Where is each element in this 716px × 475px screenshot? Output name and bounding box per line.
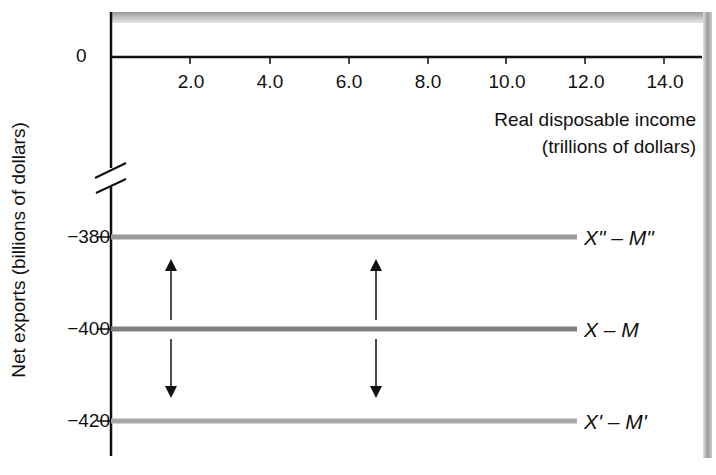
x-tick-label: 2.0: [178, 71, 204, 93]
y-tick-label-380: −380: [67, 226, 110, 248]
frame-right-shade: [703, 12, 712, 458]
x-tick-label: 6.0: [336, 71, 362, 93]
curve-label-lower: X' – M': [584, 410, 647, 434]
y-tick-label-400: −400: [67, 318, 110, 340]
x-tick-label: 8.0: [415, 71, 441, 93]
x-tick-label: 14.0: [647, 71, 684, 93]
x-axis-title: Real disposable income (trillions of dol…: [494, 106, 696, 160]
x-tick-label: 12.0: [568, 71, 605, 93]
curve-label-upper: X" – M": [584, 226, 654, 250]
frame-top-shade: [111, 12, 711, 23]
y-tick-label-420: −420: [67, 410, 110, 432]
curve-label-mid: X – M: [584, 318, 639, 342]
x-tick-label: 10.0: [489, 71, 526, 93]
y-tick-label-0: 0: [76, 45, 87, 67]
x-tick-label: 4.0: [257, 71, 283, 93]
y-axis-title: Net exports (billions of dollars): [8, 122, 30, 378]
x-axis-title-line1: Real disposable income: [494, 106, 696, 133]
x-axis-title-line2: (trillions of dollars): [494, 133, 696, 160]
chart-figure: 0 −380 −400 −420 2.0 4.0 6.0 8.0 10.0 12…: [0, 0, 716, 475]
